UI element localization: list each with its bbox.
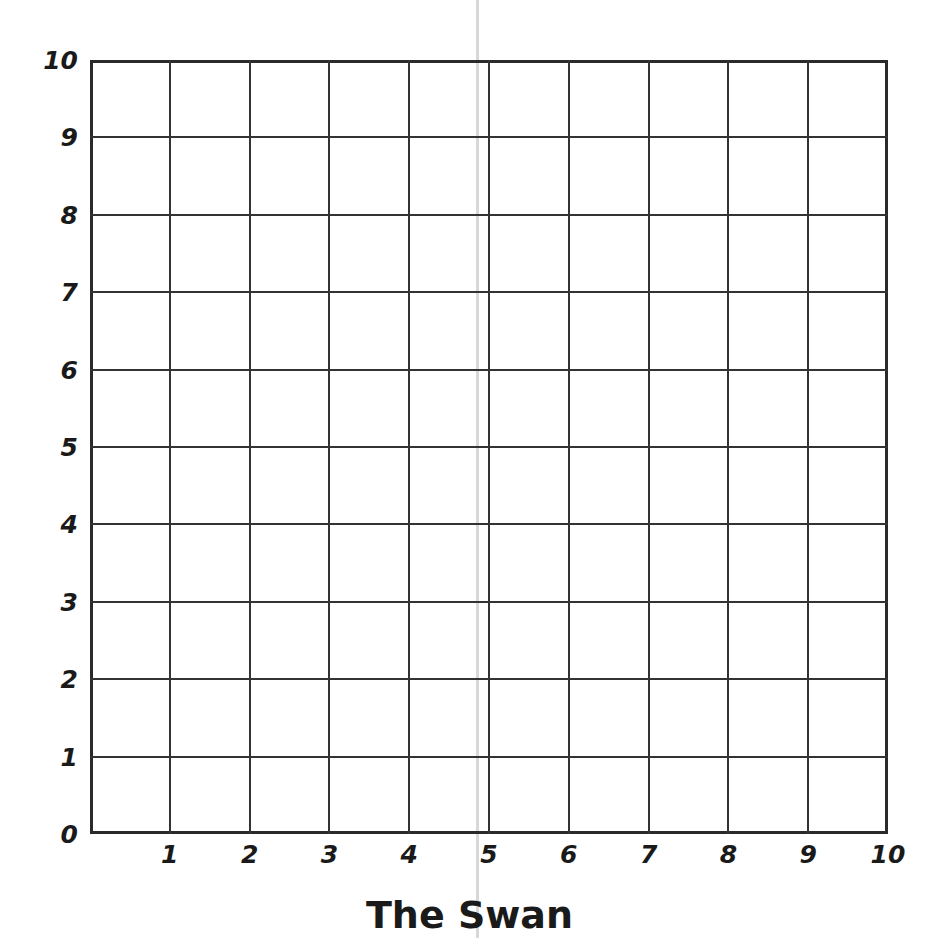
x-axis-label: 5: [469, 842, 509, 867]
y-axis-label: 6: [38, 358, 78, 383]
x-axis-label: 10: [868, 842, 908, 867]
x-axis-label: 2: [230, 842, 270, 867]
y-axis-label: 8: [38, 203, 78, 228]
x-axis-label: 9: [788, 842, 828, 867]
y-axis-label: 9: [38, 125, 78, 150]
grid-horizontal-line: [90, 601, 888, 603]
y-axis-label: 3: [38, 590, 78, 615]
grid-horizontal-line: [90, 214, 888, 216]
grid-horizontal-line: [90, 369, 888, 371]
grid-horizontal-line: [90, 446, 888, 448]
x-axis-label: 6: [549, 842, 589, 867]
y-axis-label: 5: [38, 435, 78, 460]
grid-horizontal-line: [90, 523, 888, 525]
x-axis-label: 4: [389, 842, 429, 867]
x-axis-label: 3: [309, 842, 349, 867]
y-axis-label: 4: [38, 512, 78, 537]
grid-horizontal-line: [90, 756, 888, 758]
x-axis-label: 1: [150, 842, 190, 867]
y-axis-label: 7: [38, 280, 78, 305]
grid-horizontal-line: [90, 291, 888, 293]
x-axis-label: 8: [708, 842, 748, 867]
x-axis-label: 7: [629, 842, 669, 867]
y-axis-label: 10: [38, 48, 78, 73]
y-axis-label: 0: [38, 822, 78, 847]
y-axis-label: 1: [38, 745, 78, 770]
grid-horizontal-line: [90, 136, 888, 138]
grid-title: The Swan: [0, 896, 939, 934]
grid-horizontal-line: [90, 678, 888, 680]
y-axis-label: 2: [38, 667, 78, 692]
